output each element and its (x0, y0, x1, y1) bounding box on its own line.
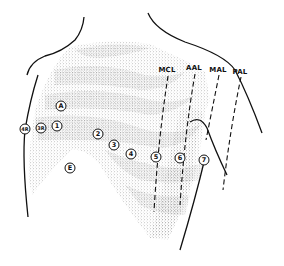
electrode-4-label: 4 (129, 151, 134, 158)
electrode-a-label: A (58, 103, 63, 110)
mal-label: MAL (209, 67, 226, 74)
electrode-4: 4 (126, 149, 137, 160)
electrode-e-label: E (68, 165, 72, 172)
electrode-7: 7 (199, 155, 210, 166)
electrode-5-label: 5 (154, 154, 159, 161)
mcl-label: MCL (158, 67, 175, 74)
pal-label: PAL (233, 69, 248, 76)
electrode-3-label: 3 (112, 142, 117, 149)
electrode-5: 5 (151, 152, 162, 163)
mal-line (206, 75, 219, 140)
electrode-4r-label: 4R (21, 127, 28, 132)
electrode-6: 6 (175, 153, 186, 164)
chest-diagram: MCL AAL MAL PAL A 1 3R 4R 2 3 4 5 6 7 E (0, 0, 284, 266)
electrode-2: 2 (93, 129, 104, 140)
electrode-2-label: 2 (96, 131, 101, 138)
aal-label: AAL (186, 65, 202, 72)
electrode-3: 3 (109, 140, 120, 151)
electrode-7-label: 7 (202, 157, 207, 164)
electrode-3r-label: 3R (37, 126, 44, 131)
electrode-4r: 4R (20, 124, 31, 135)
electrode-1-label: 1 (55, 123, 60, 130)
electrode-6-label: 6 (178, 155, 183, 162)
electrode-a: A (56, 101, 67, 112)
electrode-1: 1 (52, 121, 63, 132)
electrode-3r: 3R (36, 123, 47, 134)
electrode-e: E (65, 163, 76, 174)
rib-cage-shading (28, 42, 210, 240)
